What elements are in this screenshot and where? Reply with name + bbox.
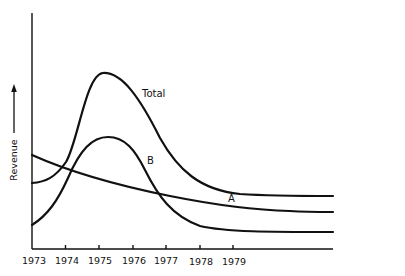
tick-1974: 1974 <box>55 255 79 266</box>
y-axis-label: Revenue <box>8 84 19 181</box>
y-axis-label-text: Revenue <box>8 139 19 181</box>
arrow-head-icon <box>11 84 17 92</box>
series-b <box>32 137 333 232</box>
label-a: A <box>228 193 235 204</box>
tick-1979: 1979 <box>222 256 246 267</box>
tick-1976: 1976 <box>122 255 146 266</box>
tick-1973: 1973 <box>22 255 46 266</box>
x-tick-labels: 1973 1974 1975 1976 1977 1978 1979 <box>22 255 246 267</box>
tick-1975: 1975 <box>88 255 112 266</box>
label-b: B <box>147 155 154 166</box>
revenue-chart: 1973 1974 1975 1976 1977 1978 1979 Reven… <box>0 0 405 276</box>
tick-1977: 1977 <box>154 255 178 266</box>
tick-1978: 1978 <box>189 256 213 267</box>
series-total <box>32 73 333 196</box>
label-total: Total <box>141 88 165 99</box>
series-a <box>32 155 333 212</box>
